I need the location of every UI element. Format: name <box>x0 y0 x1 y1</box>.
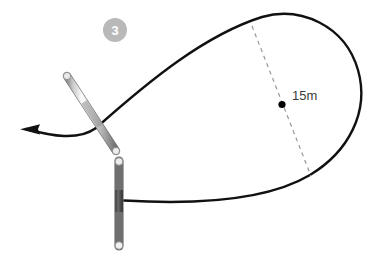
dimension-point-marker <box>278 101 285 108</box>
trajectory-loop <box>96 14 361 202</box>
step-number-badge[interactable]: 3 <box>103 18 127 42</box>
diagram-canvas: 3 15m <box>0 0 380 265</box>
dimension-label: 15m <box>292 88 317 103</box>
vertical-pole <box>115 158 123 250</box>
diagram-artwork <box>0 0 380 265</box>
step-number-label: 3 <box>111 24 118 37</box>
vertical-pole-band <box>115 190 122 212</box>
direction-arrow-icon <box>20 124 40 134</box>
